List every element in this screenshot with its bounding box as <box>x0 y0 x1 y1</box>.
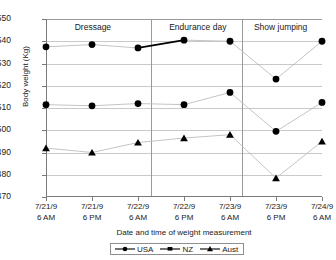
data-point <box>135 45 142 52</box>
data-point <box>135 100 142 107</box>
series-segment <box>276 102 322 131</box>
data-point <box>89 102 96 109</box>
series-segment <box>92 104 138 106</box>
series-segment <box>184 135 230 138</box>
series-segment <box>276 141 322 178</box>
data-point <box>273 76 280 83</box>
data-point <box>42 144 50 151</box>
series-layer <box>0 0 336 260</box>
series-segment <box>92 142 138 152</box>
series-nz <box>43 89 326 135</box>
data-point <box>43 101 50 108</box>
body-weight-line-chart: Body weight (Kg) 55054053052051050049048… <box>0 0 336 260</box>
series-segment <box>46 45 92 47</box>
chart-legend: USA NZ Aust <box>110 243 244 255</box>
data-point <box>89 41 96 48</box>
legend-label-usa: USA <box>137 245 153 254</box>
data-point <box>319 38 326 45</box>
series-segment <box>184 92 230 104</box>
series-segment <box>230 92 276 131</box>
legend-key-triangle-icon <box>200 245 220 253</box>
data-point <box>181 37 188 44</box>
data-point <box>181 101 188 108</box>
series-usa <box>43 37 326 83</box>
series-segment <box>138 104 184 105</box>
series-segment <box>92 45 138 48</box>
series-segment <box>46 148 92 152</box>
series-segment <box>230 135 276 178</box>
data-point <box>227 38 234 45</box>
data-point <box>319 99 326 106</box>
series-segment <box>138 138 184 142</box>
legend-key-circle-icon <box>115 245 135 253</box>
series-aust <box>42 131 326 181</box>
series-segment <box>184 40 230 41</box>
legend-key-square-icon <box>160 245 180 253</box>
series-segment <box>46 105 92 106</box>
legend-label-nz: NZ <box>182 245 193 254</box>
x-axis-title: Date and time of weight measurement <box>46 228 322 237</box>
legend-item-usa[interactable]: USA <box>115 245 153 254</box>
legend-item-nz[interactable]: NZ <box>160 245 193 254</box>
legend-item-aust[interactable]: Aust <box>200 245 238 254</box>
series-segment <box>138 40 184 48</box>
data-point <box>43 43 50 50</box>
series-segment <box>276 41 322 79</box>
series-segment <box>230 41 276 79</box>
data-point <box>273 128 280 135</box>
data-point <box>318 138 326 145</box>
legend-label-aust: Aust <box>222 245 238 254</box>
data-point <box>227 89 234 96</box>
